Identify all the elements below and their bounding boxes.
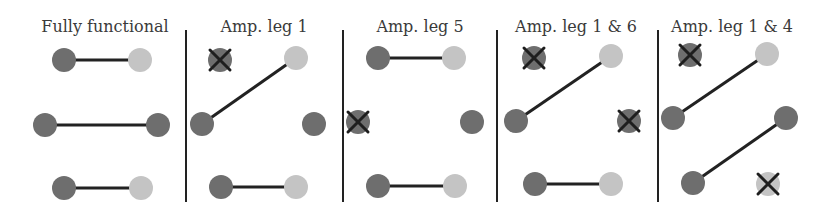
leg-circle-icon <box>661 106 685 130</box>
panel-title: Amp. leg 1 <box>219 17 307 36</box>
leg-circle-icon <box>443 174 467 198</box>
leg-circle-icon <box>460 110 484 134</box>
amputated-leg-node <box>346 110 370 134</box>
leg-node <box>599 172 623 196</box>
leg-circle-icon <box>599 44 623 68</box>
leg-node <box>774 106 798 130</box>
leg-node <box>33 113 57 137</box>
amputated-leg-node <box>522 46 546 70</box>
leg-circle-icon <box>504 109 528 133</box>
leg-node <box>209 175 233 199</box>
leg-node <box>599 44 623 68</box>
panel-amp-leg-1-and-4: Amp. leg 1 & 4 <box>661 17 798 196</box>
panel-amp-leg-1: Amp. leg 1 <box>190 17 326 199</box>
panel-title: Amp. leg 1 & 4 <box>670 17 793 36</box>
leg-circle-icon <box>599 172 623 196</box>
leg-node <box>284 46 308 70</box>
leg-node <box>366 46 390 70</box>
leg-circle-icon <box>33 113 57 137</box>
leg-circle-icon <box>755 42 779 66</box>
leg-circle-icon <box>284 175 308 199</box>
leg-circle-icon <box>129 176 153 200</box>
leg-circle-icon <box>442 46 466 70</box>
panel-title: Amp. leg 5 <box>375 17 463 36</box>
leg-circle-icon <box>366 46 390 70</box>
panel-amp-leg-1-and-6: Amp. leg 1 & 6 <box>504 17 641 196</box>
leg-amputation-diagram: Fully functional Amp. leg 1 Amp. leg 5 A… <box>0 0 834 210</box>
leg-node <box>128 48 152 72</box>
amputated-leg-node <box>208 48 232 72</box>
leg-circle-icon <box>52 176 76 200</box>
leg-node <box>52 176 76 200</box>
leg-circle-icon <box>146 113 170 137</box>
leg-node <box>443 174 467 198</box>
amputated-leg-node <box>617 109 641 133</box>
leg-node <box>190 112 214 136</box>
leg-node <box>755 42 779 66</box>
leg-node <box>52 48 76 72</box>
leg-circle-icon <box>52 48 76 72</box>
panel-dividers <box>186 30 658 202</box>
leg-circle-icon <box>128 48 152 72</box>
amputated-leg-node <box>678 43 702 67</box>
leg-node <box>146 113 170 137</box>
leg-circle-icon <box>284 46 308 70</box>
leg-circle-icon <box>523 172 547 196</box>
leg-circle-icon <box>190 112 214 136</box>
leg-node <box>460 110 484 134</box>
leg-node <box>504 109 528 133</box>
leg-node <box>661 106 685 130</box>
leg-node <box>284 175 308 199</box>
leg-node <box>681 171 705 195</box>
leg-node <box>366 174 390 198</box>
leg-node <box>129 176 153 200</box>
panel-title: Amp. leg 1 & 6 <box>514 17 637 36</box>
panel-title: Fully functional <box>41 17 168 36</box>
leg-circle-icon <box>209 175 233 199</box>
leg-circle-icon <box>366 174 390 198</box>
leg-circle-icon <box>302 112 326 136</box>
leg-node <box>442 46 466 70</box>
panel-amp-leg-5: Amp. leg 5 <box>346 17 484 198</box>
leg-node <box>302 112 326 136</box>
amputated-leg-node <box>756 172 780 196</box>
leg-circle-icon <box>681 171 705 195</box>
leg-circle-icon <box>774 106 798 130</box>
panel-fully-functional: Fully functional <box>33 17 170 200</box>
leg-node <box>523 172 547 196</box>
